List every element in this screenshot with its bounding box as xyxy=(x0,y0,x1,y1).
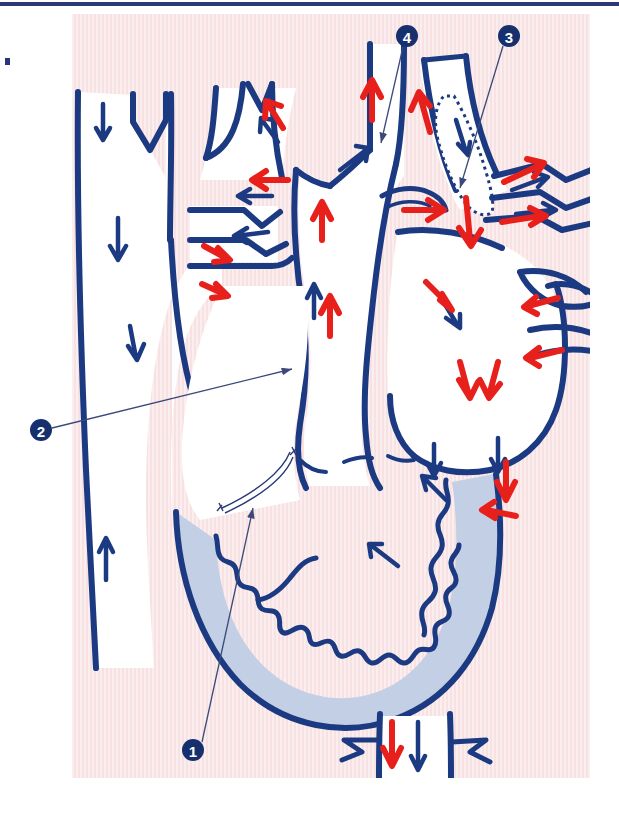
top-rule xyxy=(0,2,619,6)
marker-3[interactable]: 3 xyxy=(498,25,520,47)
marker-4[interactable]: 4 xyxy=(396,25,418,47)
marker-2-circle[interactable] xyxy=(30,419,52,441)
marker-4-circle[interactable] xyxy=(396,25,418,47)
corner-tick-icon xyxy=(5,58,10,65)
figure-root: 1 2 3 4 xyxy=(0,0,619,813)
anatomical-diagram-canvas: 1 2 3 4 xyxy=(0,0,619,813)
marker-1-circle[interactable] xyxy=(182,739,204,761)
marker-1[interactable]: 1 xyxy=(182,739,204,761)
marker-2[interactable]: 2 xyxy=(30,419,52,441)
marker-3-circle[interactable] xyxy=(498,25,520,47)
